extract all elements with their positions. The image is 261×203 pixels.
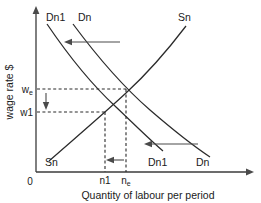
- y-tick-we: we: [21, 84, 33, 96]
- y-tick-w1: w1: [19, 107, 33, 118]
- origin-label: 0: [27, 176, 33, 187]
- y-axis-arrowhead: [33, 6, 40, 14]
- demand-curve-dn1: [47, 24, 163, 151]
- label-sn-top: Sn: [178, 11, 191, 23]
- x-tick-n1-sub: 1: [105, 175, 111, 186]
- axes-group: [33, 6, 254, 175]
- x-tick-ne-sub: e: [127, 180, 131, 187]
- quantity-fall-arrow-icon: [106, 157, 124, 163]
- x-axis-arrowhead: [246, 169, 254, 176]
- supply-curve-sn: [49, 26, 186, 161]
- label-dn1-bottom: Dn1: [148, 156, 167, 168]
- y-tick-w1-sub: 1: [27, 107, 33, 118]
- demand-curve-dn: [73, 24, 210, 157]
- annotation-arrows-group: [43, 39, 198, 163]
- labour-market-diagram: Dn1 Dn Sn Sn Dn1 Dn we w1 n1 ne 0 wage r…: [0, 0, 261, 203]
- x-axis-label: Quantity of labour per period: [81, 189, 214, 201]
- diagram-canvas: Dn1 Dn Sn Sn Dn1 Dn we w1 n1 ne 0 wage r…: [0, 0, 261, 203]
- label-dn-top: Dn: [78, 11, 92, 23]
- x-tick-n1: n1: [99, 175, 111, 186]
- shift-arrow-top-icon: [64, 39, 120, 45]
- wage-fall-arrow-icon: [43, 93, 49, 110]
- y-axis-label: wage rate $: [3, 64, 15, 120]
- label-sn-bottom: Sn: [45, 156, 58, 168]
- y-tick-we-sub: e: [29, 89, 33, 96]
- x-tick-ne: ne: [121, 175, 131, 187]
- label-dn1-top: Dn1: [46, 11, 65, 23]
- label-dn-bottom: Dn: [196, 156, 210, 168]
